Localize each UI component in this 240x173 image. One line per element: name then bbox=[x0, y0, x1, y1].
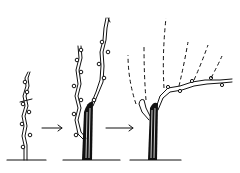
stage-2-trunk-two-canes bbox=[63, 18, 120, 160]
stage-1-young-cane bbox=[7, 72, 46, 160]
arrow-1 bbox=[42, 125, 62, 131]
arrow-2 bbox=[106, 125, 133, 131]
stage-3-trained-vine bbox=[128, 18, 232, 160]
diagram-canvas bbox=[0, 0, 240, 173]
